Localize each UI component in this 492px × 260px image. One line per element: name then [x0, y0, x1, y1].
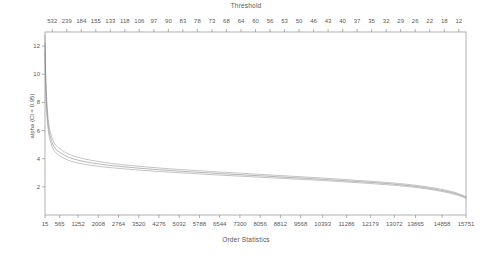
plot-canvas [0, 0, 492, 260]
data-series-layer [45, 35, 466, 199]
plot-frame [45, 32, 466, 215]
threshold-diagnostic-plot: Threshold Order Statistics alpha (CI = 0… [0, 0, 492, 260]
tick-marks [42, 29, 466, 218]
